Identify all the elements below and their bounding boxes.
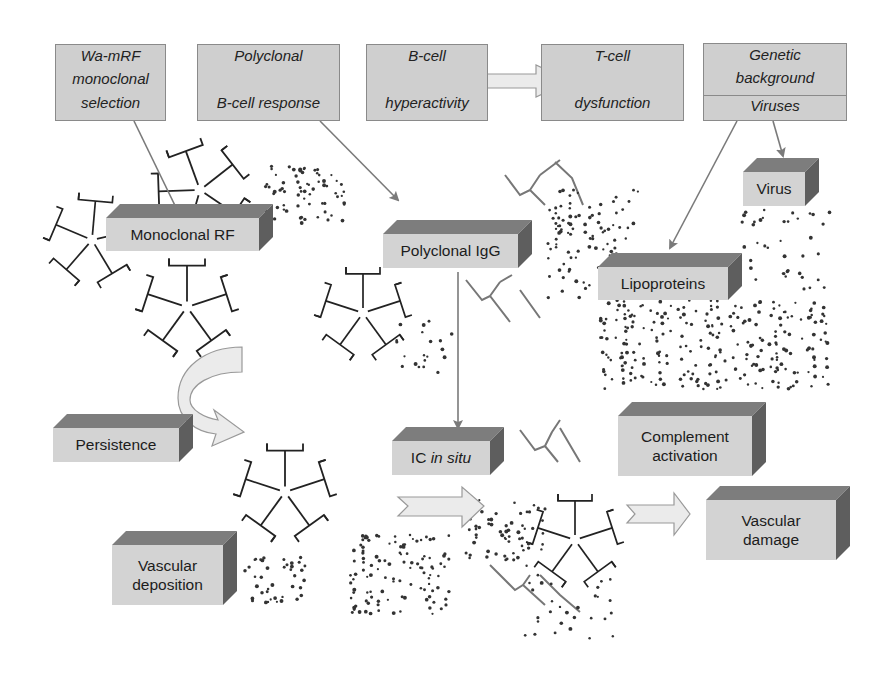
ic-in-situ-label: IC in situ <box>392 441 490 475</box>
vascular-damage-line2: damage <box>743 530 799 549</box>
complement-line2: activation <box>652 446 717 465</box>
lipoproteins-label: Lipoproteins <box>598 267 728 300</box>
complement-line1: Complement <box>641 427 729 446</box>
polyclonal-igg-label: Polyclonal IgG <box>383 234 518 268</box>
ic-prefix: IC <box>411 448 431 467</box>
persistence-label: Persistence <box>53 428 179 462</box>
vascular-deposition-label: Vascular deposition <box>112 545 223 605</box>
vascular-deposition-line2: deposition <box>132 575 203 594</box>
monoclonal-rf-label: Monoclonal RF <box>106 218 259 251</box>
vascular-damage-label: Vascular damage <box>706 500 836 560</box>
vascular-deposition-line1: Vascular <box>138 556 197 575</box>
ic-in-situ-italic: in situ <box>431 448 472 467</box>
vascular-damage-line1: Vascular <box>741 511 800 530</box>
complement-label: Complement activation <box>618 416 752 476</box>
virus-label: Virus <box>743 172 805 206</box>
